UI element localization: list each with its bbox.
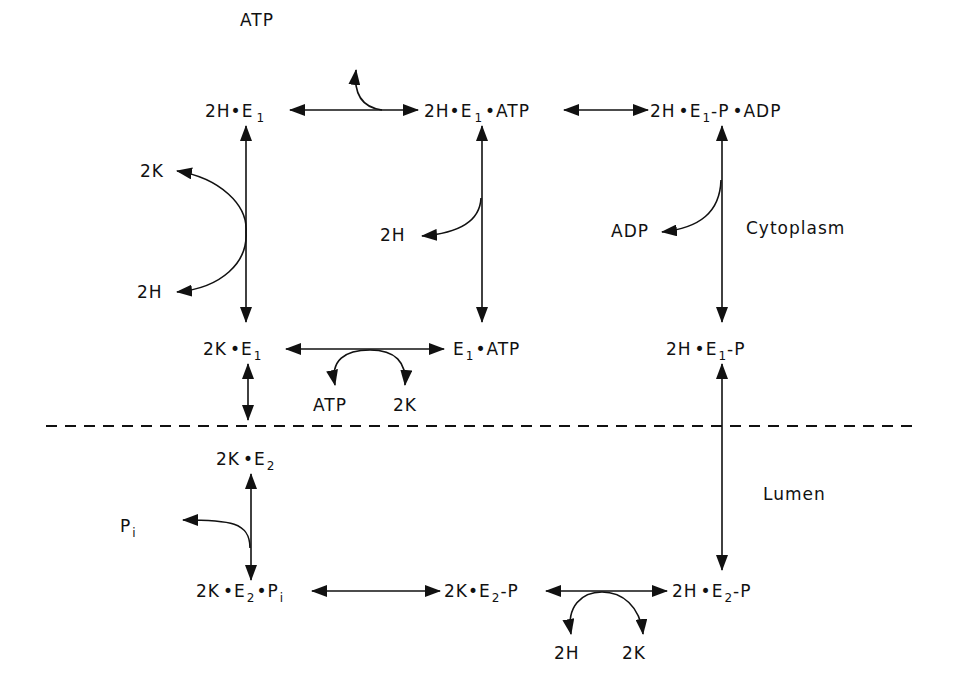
state-2h-e1: 2H•E1 xyxy=(205,101,265,125)
label-2h-bottom: 2H xyxy=(554,643,580,663)
state-2k-e2-pi: 2K•E2•Pi xyxy=(196,581,284,605)
state-2k-e2: 2K•E2 xyxy=(216,449,275,473)
label-2h-mid: 2H xyxy=(380,225,406,245)
label-2k-mid: 2K xyxy=(393,395,417,415)
label-pi: Pi xyxy=(120,516,137,540)
state-2h-e1-p: 2H•E1-P xyxy=(666,339,745,363)
state-2h-e1-p-adp: 2H•E1-P•ADP xyxy=(650,101,781,125)
label-2h-in: 2H xyxy=(137,282,163,302)
state-2k-e1: 2K•E1 xyxy=(203,339,262,363)
svg-text:2H•E1-P: 2H•E1-P xyxy=(666,339,745,363)
label-2k-bottom: 2K xyxy=(622,643,646,663)
reaction-diagram: 2H•E1 2H•E1•ATP 2H•E1-P•ADP ATP 2K 2H 2H… xyxy=(0,0,959,695)
svg-text:2K•E2-P: 2K•E2-P xyxy=(444,581,519,605)
svg-text:2H•E2-P: 2H•E2-P xyxy=(672,581,751,605)
region-lumen: Lumen xyxy=(763,484,826,504)
arrow-pi-out xyxy=(183,520,250,548)
label-adp: ADP xyxy=(611,221,649,241)
label-2k-out: 2K xyxy=(140,161,164,181)
svg-text:2K•E1: 2K•E1 xyxy=(203,339,262,363)
arrow-adp-out xyxy=(662,180,721,232)
arrow-2h-out-mid xyxy=(422,198,481,236)
svg-text:E1•ATP: E1•ATP xyxy=(453,339,520,363)
state-e1-atp: E1•ATP xyxy=(453,339,520,363)
label-atp-top: ATP xyxy=(240,10,274,30)
svg-text:2H•E1: 2H•E1 xyxy=(205,101,265,125)
arrow-k-h-exchange xyxy=(177,171,246,292)
arrow-h-k-exchange-bottom xyxy=(570,592,643,634)
svg-text:2K•E2•Pi: 2K•E2•Pi xyxy=(196,581,284,605)
svg-text:2H•E1-P•ADP: 2H•E1-P•ADP xyxy=(650,101,781,125)
arrow-atp-in xyxy=(356,70,382,110)
state-2k-e2-p: 2K•E2-P xyxy=(444,581,519,605)
svg-text:2H•E1•ATP: 2H•E1•ATP xyxy=(424,101,530,125)
label-atp-mid: ATP xyxy=(313,395,347,415)
svg-text:2K•E2: 2K•E2 xyxy=(216,449,275,473)
state-2h-e1-atp: 2H•E1•ATP xyxy=(424,101,530,125)
region-cytoplasm: Cytoplasm xyxy=(746,218,845,238)
arrow-atp-2k-exchange xyxy=(334,350,405,385)
state-2h-e2-p: 2H•E2-P xyxy=(672,581,751,605)
